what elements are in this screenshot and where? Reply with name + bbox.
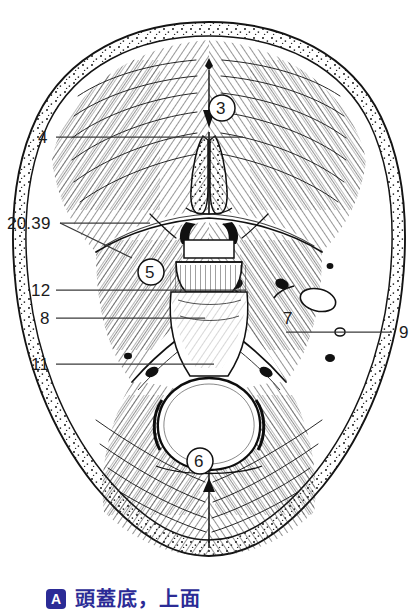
label-11: 11	[31, 356, 49, 373]
callout-7: 7	[283, 310, 293, 327]
label-8: 8	[40, 310, 50, 327]
callout-6: 6	[194, 453, 204, 470]
skull-base-illustration	[0, 0, 419, 580]
figure-caption: A 頭蓋底，上面	[46, 589, 201, 609]
anatomical-figure: 3 5 6 7 4 20.39 12 8 11 9 A 頭蓋底，上面	[0, 0, 419, 615]
callout-5: 5	[145, 264, 155, 281]
label-12: 12	[31, 282, 50, 299]
label-20-39: 20.39	[7, 215, 51, 232]
figure-caption-text: 頭蓋底，上面	[75, 589, 201, 609]
label-9: 9	[399, 324, 409, 341]
panel-letter-badge: A	[46, 589, 66, 609]
label-4: 4	[38, 129, 48, 146]
callout-3: 3	[216, 100, 226, 117]
